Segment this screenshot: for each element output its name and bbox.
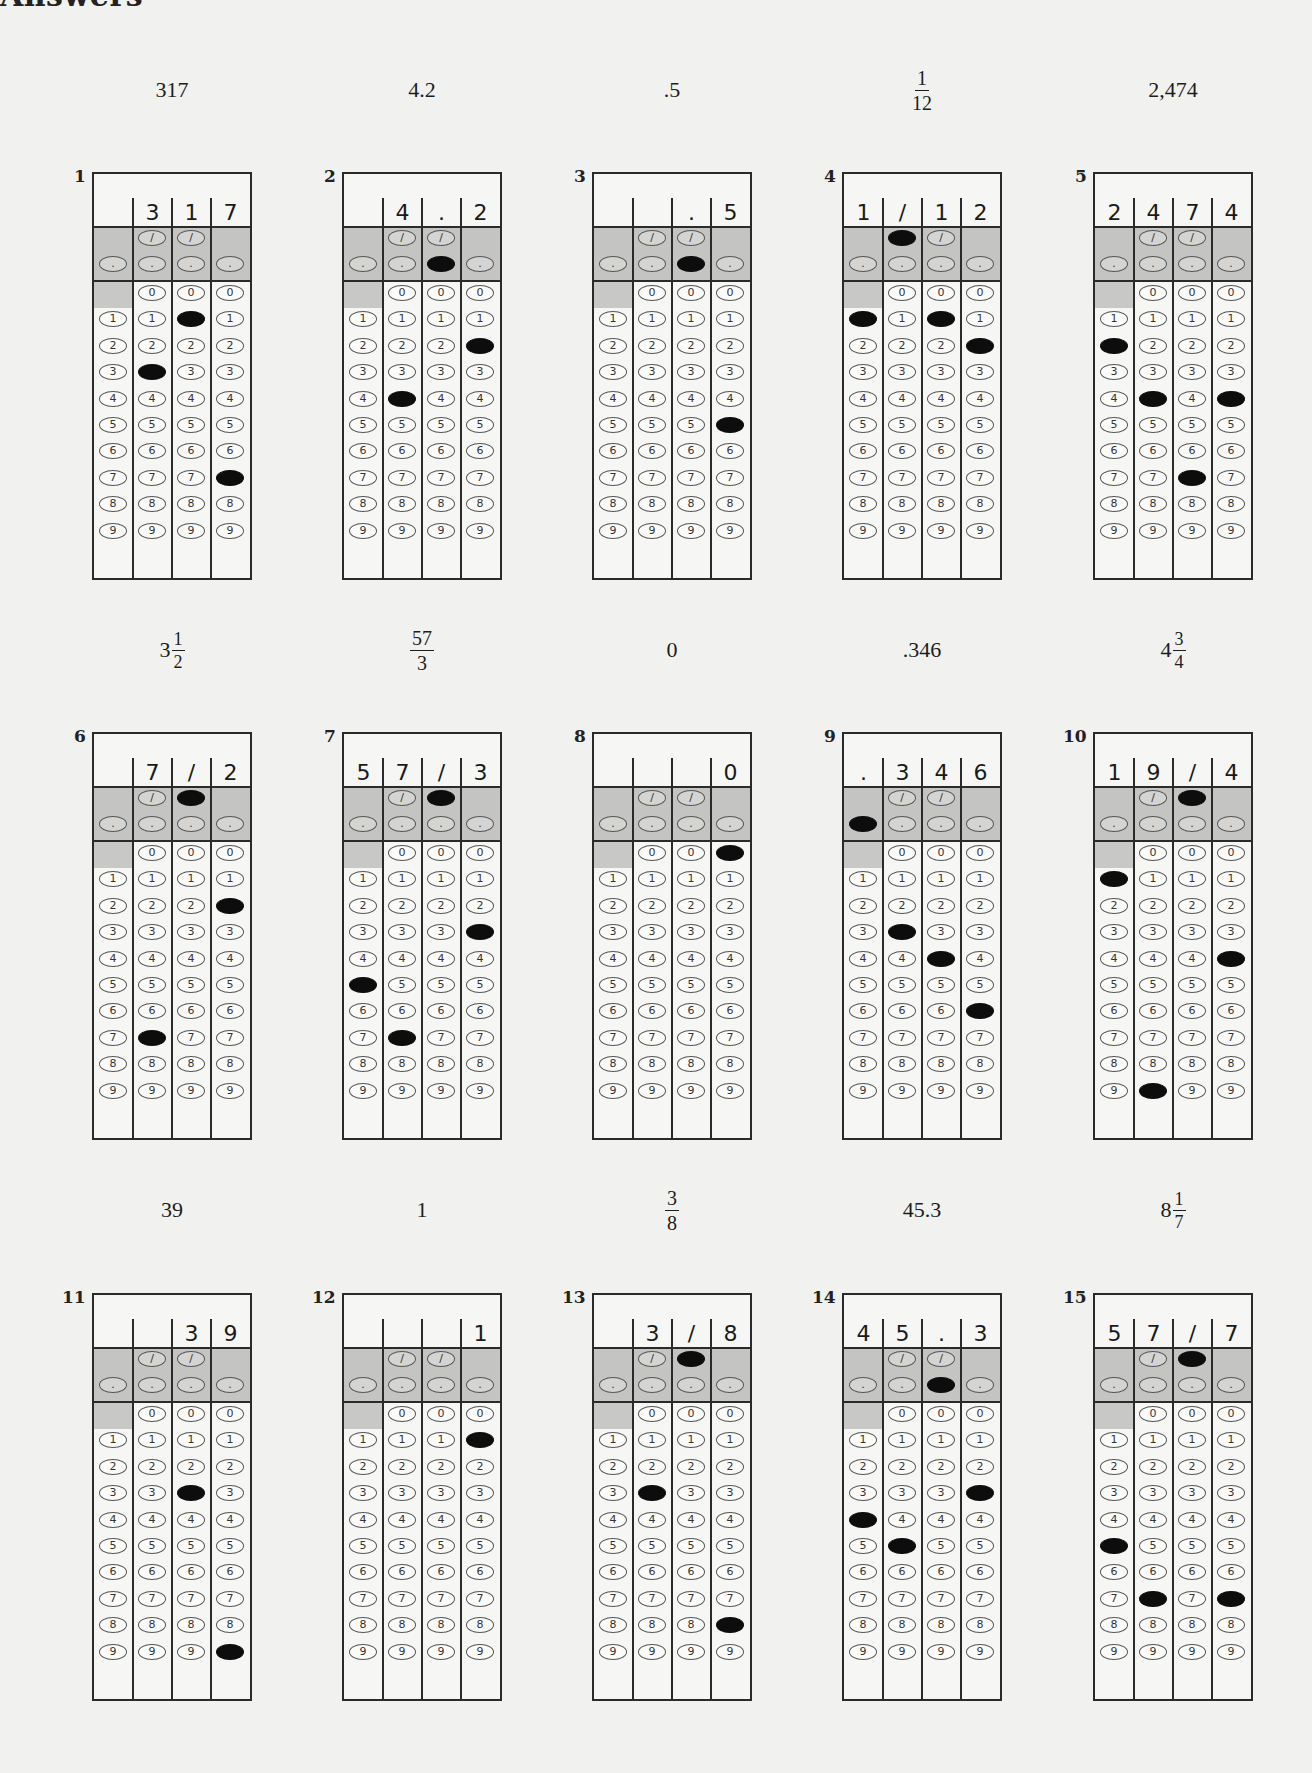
digit-bubble-5[interactable]: 5 (466, 1538, 494, 1554)
digit-bubble-2[interactable]: 2 (466, 338, 494, 354)
digit-bubble-0[interactable]: 0 (388, 285, 416, 301)
digit-bubble-8[interactable]: 8 (216, 1617, 244, 1633)
digit-bubble-9[interactable]: 9 (888, 523, 916, 539)
digit-bubble-7[interactable]: 7 (138, 1591, 166, 1607)
digit-bubble-3[interactable]: 3 (388, 364, 416, 380)
digit-bubble-5[interactable]: 5 (927, 417, 955, 433)
digit-bubble-7[interactable]: 7 (427, 1030, 455, 1046)
decimal-bubble[interactable]: . (927, 1377, 955, 1393)
digit-bubble-2[interactable]: 2 (1217, 898, 1245, 914)
digit-bubble-0[interactable]: 0 (216, 285, 244, 301)
digit-bubble-6[interactable]: 6 (1178, 443, 1206, 459)
write-in-cell[interactable]: 3 (461, 760, 500, 786)
digit-bubble-7[interactable]: 7 (177, 1030, 205, 1046)
digit-bubble-8[interactable]: 8 (466, 496, 494, 512)
digit-bubble-4[interactable]: 4 (138, 1512, 166, 1528)
digit-bubble-9[interactable]: 9 (388, 1083, 416, 1099)
decimal-bubble[interactable]: . (1139, 1377, 1167, 1393)
digit-bubble-9[interactable]: 9 (388, 1644, 416, 1660)
write-in-cell[interactable]: 2 (1095, 200, 1134, 226)
digit-bubble-3[interactable]: 3 (599, 924, 627, 940)
decimal-bubble[interactable]: . (716, 816, 744, 832)
digit-bubble-2[interactable]: 2 (466, 1459, 494, 1475)
digit-bubble-3[interactable]: 3 (349, 364, 377, 380)
digit-bubble-6[interactable]: 6 (888, 443, 916, 459)
digit-bubble-6[interactable]: 6 (1217, 1003, 1245, 1019)
digit-bubble-9[interactable]: 9 (599, 523, 627, 539)
digit-bubble-5[interactable]: 5 (888, 417, 916, 433)
digit-bubble-4[interactable]: 4 (1217, 391, 1245, 407)
digit-bubble-8[interactable]: 8 (1217, 496, 1245, 512)
digit-bubble-1[interactable]: 1 (1139, 311, 1167, 327)
digit-bubble-1[interactable]: 1 (966, 1432, 994, 1448)
digit-bubble-9[interactable]: 9 (888, 1644, 916, 1660)
digit-bubble-1[interactable]: 1 (888, 1432, 916, 1448)
write-in-cell[interactable] (633, 760, 672, 786)
write-in-cell[interactable] (94, 200, 133, 226)
write-in-cell[interactable] (594, 200, 633, 226)
digit-bubble-4[interactable]: 4 (466, 1512, 494, 1528)
digit-bubble-8[interactable]: 8 (849, 496, 877, 512)
digit-bubble-1[interactable]: 1 (638, 871, 666, 887)
slash-bubble[interactable]: / (927, 230, 955, 246)
digit-bubble-7[interactable]: 7 (388, 1591, 416, 1607)
digit-bubble-5[interactable]: 5 (177, 977, 205, 993)
digit-bubble-9[interactable]: 9 (888, 1083, 916, 1099)
digit-bubble-6[interactable]: 6 (466, 1003, 494, 1019)
digit-bubble-0[interactable]: 0 (927, 845, 955, 861)
digit-bubble-0[interactable]: 0 (466, 1406, 494, 1422)
digit-bubble-8[interactable]: 8 (1217, 1056, 1245, 1072)
digit-bubble-4[interactable]: 4 (677, 951, 705, 967)
digit-bubble-9[interactable]: 9 (99, 1083, 127, 1099)
digit-bubble-6[interactable]: 6 (1139, 443, 1167, 459)
decimal-bubble[interactable]: . (1100, 816, 1128, 832)
write-in-cell[interactable]: 3 (883, 760, 922, 786)
digit-bubble-1[interactable]: 1 (849, 311, 877, 327)
digit-bubble-2[interactable]: 2 (638, 1459, 666, 1475)
digit-bubble-5[interactable]: 5 (349, 417, 377, 433)
decimal-bubble[interactable]: . (1217, 816, 1245, 832)
digit-bubble-6[interactable]: 6 (716, 443, 744, 459)
digit-bubble-2[interactable]: 2 (966, 338, 994, 354)
write-in-cell[interactable]: / (1173, 760, 1212, 786)
decimal-bubble[interactable]: . (966, 816, 994, 832)
digit-bubble-1[interactable]: 1 (599, 311, 627, 327)
digit-bubble-3[interactable]: 3 (638, 924, 666, 940)
digit-bubble-4[interactable]: 4 (888, 1512, 916, 1528)
digit-bubble-1[interactable]: 1 (677, 1432, 705, 1448)
digit-bubble-0[interactable]: 0 (427, 1406, 455, 1422)
decimal-bubble[interactable]: . (1139, 816, 1167, 832)
digit-bubble-9[interactable]: 9 (466, 1083, 494, 1099)
digit-bubble-3[interactable]: 3 (177, 1485, 205, 1501)
digit-bubble-9[interactable]: 9 (966, 1644, 994, 1660)
digit-bubble-9[interactable]: 9 (349, 1644, 377, 1660)
digit-bubble-5[interactable]: 5 (1100, 417, 1128, 433)
digit-bubble-2[interactable]: 2 (99, 898, 127, 914)
digit-bubble-3[interactable]: 3 (1178, 1485, 1206, 1501)
write-in-cell[interactable]: 4 (844, 1321, 883, 1347)
digit-bubble-0[interactable]: 0 (138, 1406, 166, 1422)
digit-bubble-5[interactable]: 5 (966, 1538, 994, 1554)
write-in-cell[interactable]: 2 (211, 760, 250, 786)
digit-bubble-8[interactable]: 8 (716, 1617, 744, 1633)
digit-bubble-4[interactable]: 4 (849, 1512, 877, 1528)
decimal-bubble[interactable]: . (1217, 1377, 1245, 1393)
decimal-bubble[interactable]: . (638, 256, 666, 272)
digit-bubble-3[interactable]: 3 (1178, 364, 1206, 380)
decimal-bubble[interactable]: . (466, 256, 494, 272)
decimal-bubble[interactable]: . (849, 1377, 877, 1393)
decimal-bubble[interactable]: . (1178, 1377, 1206, 1393)
digit-bubble-1[interactable]: 1 (99, 311, 127, 327)
digit-bubble-5[interactable]: 5 (1178, 417, 1206, 433)
digit-bubble-6[interactable]: 6 (677, 1003, 705, 1019)
digit-bubble-1[interactable]: 1 (138, 1432, 166, 1448)
digit-bubble-8[interactable]: 8 (888, 1617, 916, 1633)
digit-bubble-3[interactable]: 3 (138, 1485, 166, 1501)
digit-bubble-2[interactable]: 2 (599, 338, 627, 354)
digit-bubble-6[interactable]: 6 (388, 1564, 416, 1580)
digit-bubble-6[interactable]: 6 (388, 1003, 416, 1019)
digit-bubble-3[interactable]: 3 (599, 364, 627, 380)
digit-bubble-3[interactable]: 3 (427, 924, 455, 940)
digit-bubble-7[interactable]: 7 (927, 1030, 955, 1046)
write-in-cell[interactable]: 5 (344, 760, 383, 786)
